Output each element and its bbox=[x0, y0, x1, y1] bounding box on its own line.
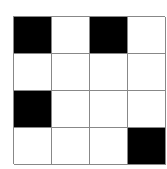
grid-cell-empty bbox=[52, 128, 90, 165]
grid-cell-empty bbox=[128, 54, 166, 91]
grid-cell-filled bbox=[14, 91, 52, 128]
grid-cell-empty bbox=[90, 91, 128, 128]
grid-cell-empty bbox=[90, 54, 128, 91]
grid-4x4 bbox=[13, 16, 165, 164]
grid-cell-empty bbox=[128, 91, 166, 128]
grid-cell-empty bbox=[90, 128, 128, 165]
grid-cell-empty bbox=[14, 54, 52, 91]
grid-cell-filled bbox=[128, 128, 166, 165]
grid-cell-empty bbox=[52, 54, 90, 91]
grid-cell-empty bbox=[128, 17, 166, 54]
grid-cell-filled bbox=[90, 17, 128, 54]
grid-cell-empty bbox=[52, 17, 90, 54]
grid-cell-empty bbox=[52, 91, 90, 128]
grid-cell-empty bbox=[14, 128, 52, 165]
grid-cell-filled bbox=[14, 17, 52, 54]
